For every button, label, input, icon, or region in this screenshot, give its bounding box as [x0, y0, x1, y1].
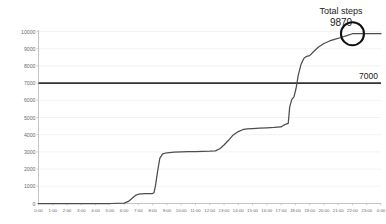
y-tick-10000: 10000 [21, 29, 36, 35]
x-tick-21: 21:00 [333, 208, 345, 213]
x-tick-14: 14:00 [233, 208, 245, 213]
y-tick-4000: 4000 [24, 132, 36, 138]
x-tick-6: 6:00 [120, 208, 129, 213]
y-tick-2000: 2000 [24, 166, 36, 172]
y-tick-6000: 6000 [24, 97, 36, 103]
y-tick-7000: 7000 [24, 80, 36, 86]
cumulative-steps-line [39, 34, 382, 204]
x-tick-11: 11:00 [190, 208, 201, 213]
x-tick-13: 13:00 [219, 208, 231, 213]
annotation-title: Total steps [319, 6, 363, 16]
x-tick-19: 19:00 [304, 208, 316, 213]
x-tick-24: 0:00 [377, 208, 386, 213]
x-tick-labels: 0:001:002:003:004:005:006:007:008:009:00… [34, 204, 386, 214]
x-tick-10: 10:00 [176, 208, 188, 213]
x-tick-18: 18:00 [290, 208, 302, 213]
x-tick-0: 0:00 [34, 208, 43, 213]
x-tick-9: 9:00 [163, 208, 172, 213]
y-tick-8000: 8000 [24, 63, 36, 69]
x-tick-7: 7:00 [134, 208, 143, 213]
x-tick-22: 22:00 [347, 208, 359, 213]
x-tick-15: 15:00 [247, 208, 259, 213]
x-tick-12: 12:00 [204, 208, 216, 213]
annotation-value: 9870 [330, 17, 353, 28]
y-tick-labels: 0100020003000400050006000700080009000100… [21, 29, 38, 207]
x-tick-16: 16:00 [261, 208, 273, 213]
x-tick-3: 3:00 [77, 208, 86, 213]
chart-canvas: 0100020003000400050006000700080009000100… [0, 0, 386, 224]
step-count-chart: 0100020003000400050006000700080009000100… [0, 0, 386, 224]
x-tick-2: 2:00 [63, 208, 72, 213]
x-tick-20: 20:00 [318, 208, 330, 213]
y-tick-9000: 9000 [24, 46, 36, 52]
x-tick-23: 23:00 [361, 208, 373, 213]
x-tick-4: 4:00 [91, 208, 100, 213]
reference-line-label: 7000 [359, 71, 378, 81]
y-tick-0: 0 [33, 201, 36, 207]
x-tick-8: 8:00 [148, 208, 157, 213]
x-tick-5: 5:00 [106, 208, 115, 213]
x-tick-17: 17:00 [276, 208, 288, 213]
x-tick-1: 1:00 [48, 208, 57, 213]
horizontal-gridlines [39, 32, 382, 204]
y-tick-3000: 3000 [24, 149, 36, 155]
y-tick-5000: 5000 [24, 115, 36, 121]
y-tick-1000: 1000 [24, 183, 36, 189]
